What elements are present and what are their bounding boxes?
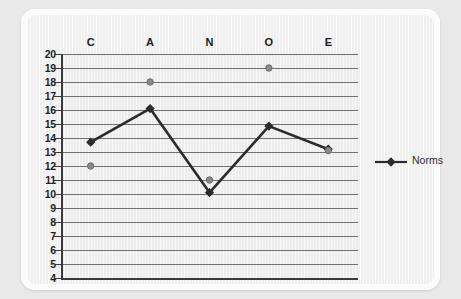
data-point	[88, 163, 94, 169]
x-tick-label: N	[206, 37, 214, 48]
y-tick	[54, 278, 61, 279]
legend-marker-norms	[375, 154, 407, 166]
y-tick	[54, 194, 61, 195]
x-tick-label: A	[146, 37, 154, 48]
y-tick	[54, 222, 61, 223]
data-point	[147, 79, 153, 85]
y-tick	[54, 166, 61, 167]
y-tick	[54, 152, 61, 153]
y-tick	[54, 250, 61, 251]
data-point	[325, 147, 331, 153]
y-tick	[54, 96, 61, 97]
y-tick	[54, 208, 61, 209]
data-point	[206, 177, 212, 183]
y-tick	[54, 110, 61, 111]
y-tick	[54, 82, 61, 83]
x-tick-label: E	[325, 37, 332, 48]
x-axis-labels: CANOE	[61, 37, 358, 51]
y-axis-labels: 2019181716151413121110987654	[27, 54, 56, 278]
gridline	[61, 278, 358, 280]
y-tick	[54, 124, 61, 125]
y-tick	[54, 180, 61, 181]
chart-card: CANOE 2019181716151413121110987654	[21, 9, 440, 290]
y-tick	[54, 68, 61, 69]
y-tick	[54, 54, 61, 55]
line-chart: CANOE 2019181716151413121110987654	[27, 15, 446, 296]
x-tick-label: O	[265, 37, 274, 48]
y-tick	[54, 138, 61, 139]
series-layer	[61, 54, 358, 278]
chart-legend: Norms	[375, 154, 443, 166]
y-tick	[54, 264, 61, 265]
screenshot-root: CANOE 2019181716151413121110987654	[0, 0, 461, 299]
x-tick-label: C	[87, 37, 95, 48]
chart-card-inner: CANOE 2019181716151413121110987654	[27, 15, 434, 284]
y-tick	[54, 236, 61, 237]
legend-label-norms: Norms	[412, 154, 443, 166]
plot-area	[61, 54, 358, 278]
data-point	[266, 65, 272, 71]
